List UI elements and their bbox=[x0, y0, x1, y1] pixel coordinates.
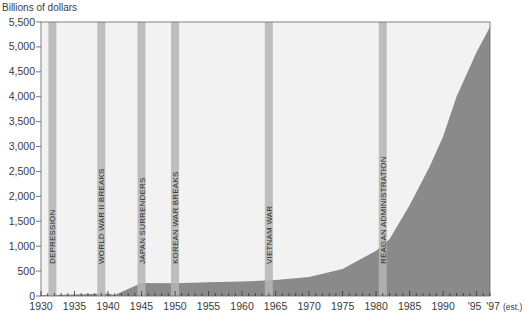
y-tick-label: 500 bbox=[17, 265, 35, 277]
x-tick-label: 1970 bbox=[297, 300, 321, 312]
debt-area-chart: DEPRESSIONWORLD WAR II BREAKSJAPAN SURRE… bbox=[0, 0, 526, 319]
x-tick-label: 1980 bbox=[364, 300, 388, 312]
y-axis: 05001,0001,5002,0002,5003,0003,5004,0004… bbox=[9, 16, 41, 302]
x-tick-label: '97 bbox=[486, 300, 500, 312]
estimate-note: (est.) bbox=[503, 302, 523, 312]
y-tick-label: 5,500 bbox=[9, 16, 35, 28]
x-tick-label: 1935 bbox=[63, 300, 87, 312]
x-tick-label: 1955 bbox=[197, 300, 221, 312]
x-tick-label: '95 bbox=[468, 300, 482, 312]
y-tick-label: 5,000 bbox=[9, 40, 35, 52]
x-tick-label: 1975 bbox=[331, 300, 355, 312]
event-bar-world-war-ii-breaks: WORLD WAR II BREAKS bbox=[97, 22, 106, 296]
x-tick-label: 1960 bbox=[230, 300, 254, 312]
x-tick-label: 1940 bbox=[96, 300, 120, 312]
x-tick-label: 1990 bbox=[431, 300, 455, 312]
y-tick-label: 2,500 bbox=[9, 165, 35, 177]
event-bar-depression: DEPRESSION bbox=[48, 22, 57, 296]
x-tick-label: 1945 bbox=[130, 300, 154, 312]
event-bar-vietnam-war: VIETNAM WAR bbox=[265, 22, 274, 296]
event-label: WORLD WAR II BREAKS bbox=[97, 168, 106, 264]
event-label: REAGAN ADMINISTRATION bbox=[379, 156, 388, 264]
y-tick-label: 3,000 bbox=[9, 140, 35, 152]
y-tick-label: 2,000 bbox=[9, 190, 35, 202]
x-tick-label: 1930 bbox=[29, 300, 53, 312]
event-bar-korean-war-breaks: KOREAN WAR BREAKS bbox=[171, 22, 180, 296]
event-label: KOREAN WAR BREAKS bbox=[171, 172, 180, 264]
x-tick-label: 1985 bbox=[398, 300, 422, 312]
event-label: DEPRESSION bbox=[48, 210, 57, 264]
y-tick-label: 4,000 bbox=[9, 90, 35, 102]
x-tick-label: 1950 bbox=[163, 300, 187, 312]
y-tick-label: 3,500 bbox=[9, 115, 35, 127]
event-label: JAPAN SURRENDERS bbox=[138, 177, 147, 264]
event-label: VIETNAM WAR bbox=[265, 206, 274, 264]
event-bar-japan-surrenders: JAPAN SURRENDERS bbox=[138, 22, 147, 296]
event-bar-reagan-administration: REAGAN ADMINISTRATION bbox=[379, 22, 388, 296]
x-tick-label: 1965 bbox=[264, 300, 288, 312]
y-tick-label: 1,000 bbox=[9, 240, 35, 252]
y-tick-label: 1,500 bbox=[9, 215, 35, 227]
y-tick-label: 4,500 bbox=[9, 65, 35, 77]
